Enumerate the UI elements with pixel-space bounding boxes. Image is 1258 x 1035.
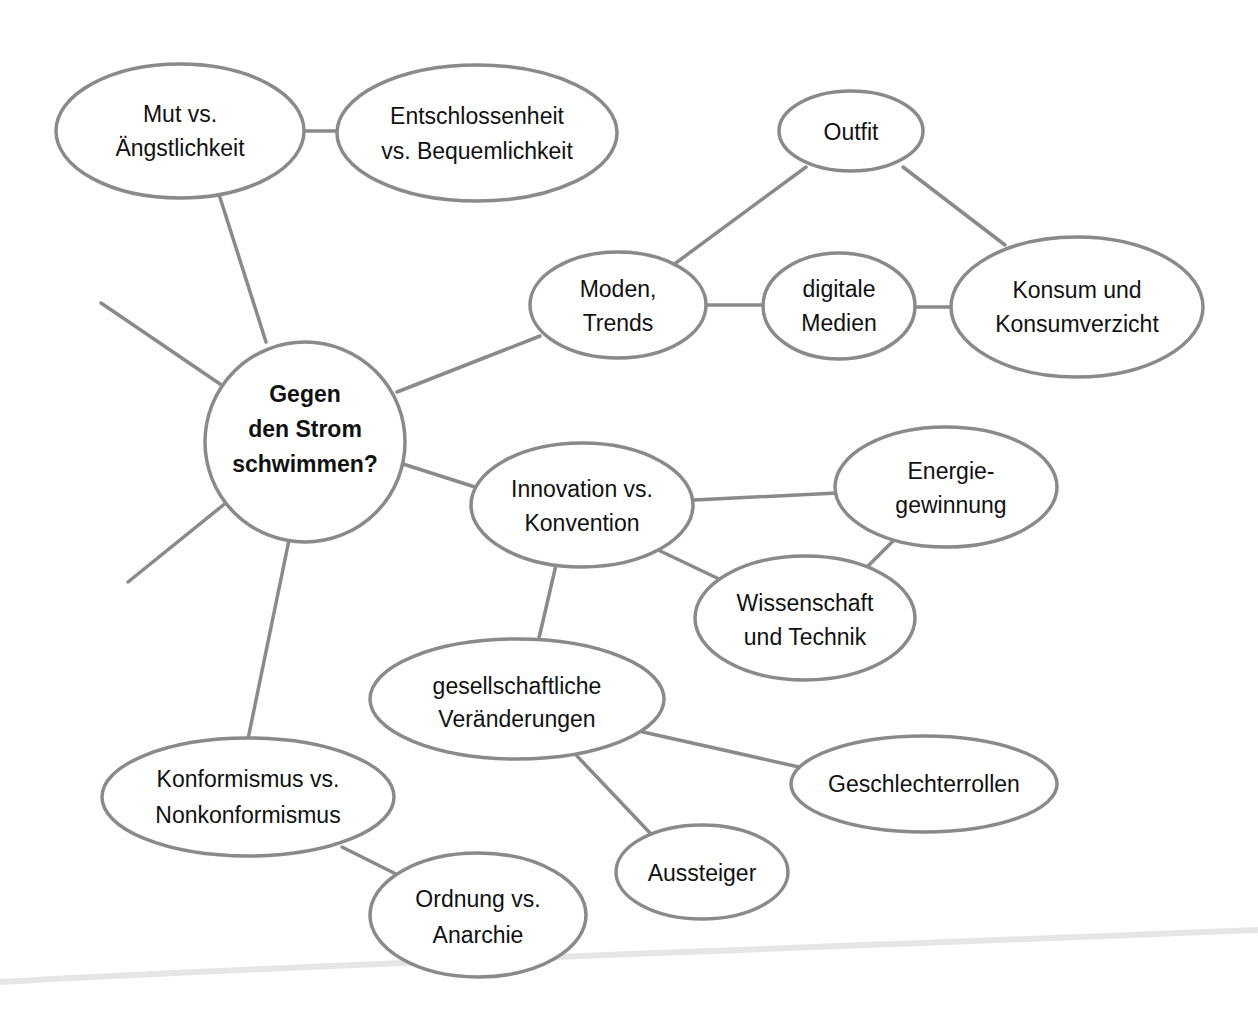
edge-gesellschaft-aussteiger [577,756,650,833]
node-mut[interactable]: Mut vs. Ängstlichkeit [56,64,304,198]
node-entschlossenheit-line-2: vs. Bequemlichkeit [381,138,573,164]
node-mut-shape [56,64,304,198]
node-energie-line-2: gewinnung [895,492,1006,518]
node-konformismus-line-1: Konformismus vs. [157,766,340,792]
node-konformismus-shape [102,738,394,856]
page-fold-line [0,930,1258,982]
node-wissenschaft-shape [695,556,915,680]
node-ordnung[interactable]: Ordnung vs. Anarchie [370,853,586,977]
edge-center-konformismus [248,540,289,739]
node-aussteiger[interactable]: Aussteiger [616,825,788,919]
node-innovation-shape [471,443,693,567]
node-wissenschaft-line-1: Wissenschaft [737,590,874,616]
edge-outfit-konsum [903,167,1005,245]
center-line-2: den Strom [248,416,362,442]
node-digitale-line-1: digitale [803,276,876,302]
node-konsum[interactable]: Konsum und Konsumverzicht [951,237,1203,377]
node-mut-line-2: Ängstlichkeit [115,135,245,161]
mind-map-canvas: Gegen den Strom schwimmen? Mut vs. Ängst… [0,0,1258,1035]
node-digitale[interactable]: digitale Medien [763,253,915,359]
node-energie-line-1: Energie- [908,458,995,484]
node-outfit-line-1: Outfit [824,119,880,145]
center-line-1: Gegen [269,381,341,407]
node-ordnung-line-1: Ordnung vs. [415,886,540,912]
node-energie[interactable]: Energie- gewinnung [835,427,1057,547]
edge-gesellschaft-geschlechter [643,732,799,767]
node-gesellschaft[interactable]: gesellschaftliche Veränderungen [370,639,664,759]
node-gesellschaft-shape [370,639,664,759]
node-innovation-line-1: Innovation vs. [511,476,653,502]
edge-innovation-gesellschaft [539,565,556,638]
edge-energie-wissenschaft [868,541,893,566]
node-moden-line-2: Trends [583,310,654,336]
node-center[interactable]: Gegen den Strom schwimmen? [205,342,405,542]
node-mut-line-1: Mut vs. [143,101,217,127]
node-moden[interactable]: Moden, Trends [530,252,706,358]
node-innovation-line-2: Konvention [524,510,639,536]
edge-center-innovation [403,464,475,487]
node-aussteiger-line-1: Aussteiger [648,860,757,886]
node-energie-shape [835,427,1057,547]
edge-center-open-lower-left [128,502,227,582]
node-moden-shape [530,252,706,358]
node-entschlossenheit-shape [337,65,617,201]
node-gesellschaft-line-2: Veränderungen [438,706,595,732]
node-entschlossenheit-line-1: Entschlossenheit [390,103,564,129]
edge-center-moden [397,336,540,392]
node-wissenschaft-line-2: und Technik [744,624,867,650]
center-line-3: schwimmen? [232,451,378,477]
node-konsum-line-2: Konsumverzicht [995,311,1159,337]
node-center-shape [205,342,405,542]
node-konsum-line-1: Konsum und [1012,277,1141,303]
node-gesellschaft-line-1: gesellschaftliche [433,673,602,699]
node-innovation[interactable]: Innovation vs. Konvention [471,443,693,567]
node-konformismus[interactable]: Konformismus vs. Nonkonformismus [102,738,394,856]
edge-innovation-energie [694,493,837,500]
node-konsum-shape [951,237,1203,377]
node-ordnung-shape [370,853,586,977]
node-outfit[interactable]: Outfit [779,91,923,171]
edge-innovation-wissenschaft [656,549,717,578]
node-moden-line-1: Moden, [580,276,657,302]
node-geschlechter-line-1: Geschlechterrollen [828,771,1020,797]
node-ordnung-line-2: Anarchie [433,922,524,948]
node-digitale-line-2: Medien [801,310,876,336]
edge-center-open-upper-left [101,303,220,384]
node-digitale-shape [763,253,915,359]
node-wissenschaft[interactable]: Wissenschaft und Technik [695,556,915,680]
node-geschlechter[interactable]: Geschlechterrollen [791,736,1057,832]
node-konformismus-line-2: Nonkonformismus [155,802,340,828]
node-entschlossenheit[interactable]: Entschlossenheit vs. Bequemlichkeit [337,65,617,201]
edge-konformismus-ordnung [342,847,396,874]
edge-moden-outfit [673,167,806,265]
